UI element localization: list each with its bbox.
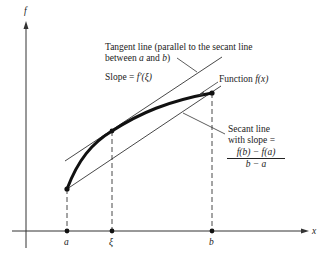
secant-annotation-line1: Secant line xyxy=(228,124,270,135)
tick-label-b: b xyxy=(209,237,214,248)
function-expr: f(x) xyxy=(255,74,268,84)
tangent-annotation-line2: between a and b) xyxy=(105,53,170,64)
tick-label-xi: ξ xyxy=(109,237,113,248)
tick-label-a: a xyxy=(64,237,69,248)
slope-expr: f′(ξ) xyxy=(137,72,152,82)
x-axis-arrow-icon xyxy=(301,229,309,234)
secant-annotation-line2: with slope = xyxy=(228,135,275,146)
point-fa xyxy=(64,186,69,191)
point-fxi xyxy=(110,129,115,134)
tangent-close: ) xyxy=(167,53,170,63)
slope-annotation: Slope = f′(ξ) xyxy=(105,72,152,83)
tangent-between-text: between xyxy=(105,53,139,63)
mvt-diagram xyxy=(0,0,331,258)
tick-dot-a xyxy=(65,229,70,234)
slope-text: Slope = xyxy=(105,72,137,82)
tangent-annotation-line1: Tangent line (parallel to the secant lin… xyxy=(105,42,253,53)
tick-dot-b xyxy=(210,229,215,234)
secant-line xyxy=(67,86,221,189)
y-axis-arrow-icon xyxy=(24,21,29,29)
fraction-numerator: f(b) − f(a) xyxy=(227,147,285,159)
tangent-and: and xyxy=(144,53,162,63)
y-axis-label: f xyxy=(24,6,27,17)
point-fb xyxy=(209,90,214,95)
function-text: Function xyxy=(219,74,255,84)
x-axis-label: x xyxy=(312,226,316,237)
tangent-leader xyxy=(177,58,197,72)
fraction-denominator: b − a xyxy=(227,159,285,170)
function-annotation: Function f(x) xyxy=(219,74,268,85)
secant-slope-fraction: f(b) − f(a) b − a xyxy=(227,147,285,170)
tick-dot-xi xyxy=(110,229,115,234)
secant-leader xyxy=(183,113,225,134)
